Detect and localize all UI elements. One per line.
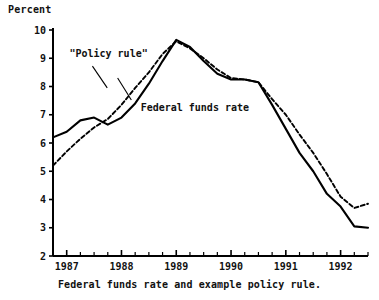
y-axis-tick-label: 4 bbox=[40, 194, 46, 205]
y-axis-unit-label: Percent bbox=[8, 4, 52, 15]
x-axis: 198719881989199019911992 bbox=[53, 250, 368, 272]
series-line-federal-funds-rate bbox=[53, 40, 368, 228]
y-axis-tick-label: 9 bbox=[40, 53, 46, 64]
federal-funds-rate-leader bbox=[118, 78, 132, 100]
chart-plot-area: 1098765432 198719881989199019911992 "Pol… bbox=[0, 0, 379, 300]
x-axis-tick-label: 1990 bbox=[219, 261, 243, 272]
federal-funds-rate-label: Federal funds rate bbox=[141, 102, 249, 113]
x-axis-tick-label: 1991 bbox=[274, 261, 298, 272]
x-axis-tick-label: 1992 bbox=[329, 261, 353, 272]
policy-rule-label: "Policy rule" bbox=[69, 48, 147, 59]
chart-figure: Percent 1098765432 198719881989199019911… bbox=[0, 0, 379, 300]
y-axis-tick-label: 3 bbox=[40, 222, 46, 233]
x-axis-tick-label: 1989 bbox=[164, 261, 188, 272]
y-axis-tick-label: 6 bbox=[40, 138, 46, 149]
x-axis-tick-label: 1987 bbox=[55, 261, 79, 272]
y-axis-tick-label: 2 bbox=[40, 251, 46, 262]
y-axis-tick-label: 5 bbox=[40, 166, 46, 177]
data-series-group bbox=[53, 40, 368, 228]
y-axis-tick-label: 8 bbox=[40, 81, 46, 92]
x-axis-tick-label: 1988 bbox=[109, 261, 133, 272]
policy-rule-leader bbox=[92, 66, 107, 88]
y-axis-tick-label: 10 bbox=[34, 25, 46, 36]
y-axis-tick-label: 7 bbox=[40, 109, 46, 120]
chart-caption: Federal funds rate and example policy ru… bbox=[0, 279, 379, 290]
y-axis: 1098765432 bbox=[34, 25, 53, 262]
